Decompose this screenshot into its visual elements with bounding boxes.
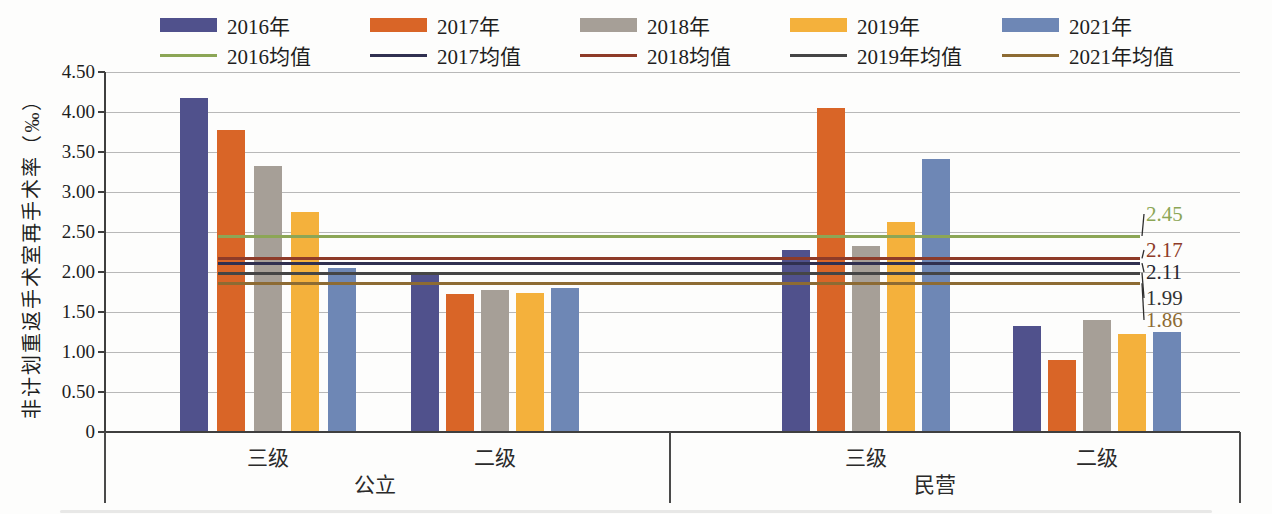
mean-value-label-2017均值: 2.11	[1146, 261, 1182, 283]
bar-2017年-公立 三级	[217, 130, 245, 432]
bar-2019年-民营 三级	[887, 222, 915, 432]
leader-line-2021年均值	[1142, 283, 1144, 320]
bar-2016年-公立 二级	[411, 274, 439, 432]
y-tick-label: 4.00	[49, 101, 95, 123]
scan-artifact	[60, 510, 1212, 513]
legend-item-2019年: 2019年	[790, 12, 920, 38]
y-tick-label: 4.50	[49, 61, 95, 83]
bar-2016年-民营 二级	[1013, 326, 1041, 432]
legend-item-2018均值: 2018均值	[580, 42, 731, 68]
x-axis-divider	[669, 432, 671, 503]
y-tick-label: 3.00	[49, 181, 95, 203]
legend-item-2018年: 2018年	[580, 12, 710, 38]
y-tick-mark	[98, 191, 105, 193]
x-sector-label: 公立	[295, 468, 455, 498]
legend-item-label: 2021年	[1069, 10, 1132, 40]
grid-line	[105, 72, 1240, 73]
mean-line-2017均值	[218, 262, 1140, 265]
grid-line	[105, 112, 1240, 113]
x-tier-label: 三级	[188, 441, 348, 471]
x-axis-line	[105, 431, 1240, 433]
legend-swatch-icon	[790, 18, 847, 32]
y-tick-label: 2.50	[49, 221, 95, 243]
x-tier-label: 三级	[786, 441, 946, 471]
y-tick-mark	[98, 271, 105, 273]
mean-value-label-2018均值: 2.17	[1146, 239, 1183, 261]
y-tick-mark	[98, 231, 105, 233]
legend-item-label: 2018年	[647, 10, 710, 40]
mean-line-2021年均值	[218, 282, 1140, 285]
legend-line-swatch-icon	[160, 54, 217, 57]
chart-figure: 2016年2017年2018年2019年2021年 2016均值2017均值20…	[0, 0, 1272, 514]
x-sector-label: 民营	[855, 468, 1015, 498]
legend-item-2021年: 2021年	[1002, 12, 1132, 38]
legend-line-swatch-icon	[580, 54, 637, 57]
bar-2019年-公立 二级	[516, 293, 544, 432]
leader-line-2018均值	[1142, 250, 1144, 258]
mean-value-label-2021年均值: 1.86	[1146, 309, 1183, 331]
y-tick-mark	[98, 391, 105, 393]
grid-line	[105, 152, 1240, 153]
y-tick-label: 2.00	[49, 261, 95, 283]
y-tick-mark	[98, 111, 105, 113]
bar-2021年-公立 二级	[551, 288, 579, 432]
y-tick-label: 3.50	[49, 141, 95, 163]
bar-2021年-民营 三级	[922, 159, 950, 432]
y-tick-label: 1.00	[49, 341, 95, 363]
legend-swatch-icon	[1002, 18, 1059, 32]
y-tick-label: 0	[49, 421, 95, 443]
y-tick-mark	[98, 71, 105, 73]
legend-item-2016均值: 2016均值	[160, 42, 311, 68]
x-tier-label: 二级	[1017, 441, 1177, 471]
bar-2016年-公立 三级	[180, 98, 208, 432]
mean-line-2016均值	[218, 235, 1140, 238]
legend-swatch-icon	[160, 18, 217, 32]
mean-value-label-2019年均值: 1.99	[1146, 287, 1183, 309]
x-axis-divider	[1239, 432, 1241, 503]
bar-2018年-公立 二级	[481, 290, 509, 432]
legend-item-label: 2017年	[437, 10, 500, 40]
legend-item-label: 2016年	[227, 10, 290, 40]
legend-item-2017均值: 2017均值	[370, 42, 521, 68]
legend-item-label: 2018均值	[647, 40, 731, 70]
y-tick-mark	[98, 151, 105, 153]
legend-line-swatch-icon	[1002, 54, 1059, 57]
bar-2017年-民营 三级	[817, 108, 845, 432]
bar-2018年-民营 二级	[1083, 320, 1111, 432]
legend-line-swatch-icon	[790, 54, 847, 57]
bar-2019年-公立 三级	[291, 212, 319, 432]
legend-item-2021年均值: 2021年均值	[1002, 42, 1174, 68]
bar-2018年-公立 三级	[254, 166, 282, 432]
legend-item-2016年: 2016年	[160, 12, 290, 38]
mean-line-2019年均值	[218, 272, 1140, 275]
bar-2017年-公立 二级	[446, 294, 474, 432]
legend-item-label: 2019年均值	[857, 40, 962, 70]
y-tick-mark	[98, 351, 105, 353]
y-tick-label: 1.50	[49, 301, 95, 323]
leader-line-2017均值	[1142, 263, 1144, 272]
x-axis-divider	[104, 432, 106, 503]
legend-swatch-icon	[580, 18, 637, 32]
y-tick-label: 0.50	[49, 381, 95, 403]
y-axis-title: 非计划重返手术室再手术率（‰）	[16, 44, 45, 464]
legend-item-2017年: 2017年	[370, 12, 500, 38]
legend-item-label: 2016均值	[227, 40, 311, 70]
bar-2021年-公立 三级	[328, 268, 356, 432]
y-tick-mark	[98, 311, 105, 313]
bar-2017年-民营 二级	[1048, 360, 1076, 432]
legend-item-label: 2017均值	[437, 40, 521, 70]
bar-2019年-民营 二级	[1118, 334, 1146, 432]
mean-line-2018均值	[218, 257, 1140, 260]
leader-line-2019年均值	[1142, 273, 1144, 298]
legend-item-2019年均值: 2019年均值	[790, 42, 962, 68]
bar-2016年-民营 三级	[782, 250, 810, 432]
x-tier-label: 二级	[415, 441, 575, 471]
y-axis-line	[104, 72, 106, 432]
legend-item-label: 2021年均值	[1069, 40, 1174, 70]
legend-swatch-icon	[370, 18, 427, 32]
legend-line-swatch-icon	[370, 54, 427, 57]
bar-2021年-民营 二级	[1153, 332, 1181, 432]
legend-item-label: 2019年	[857, 10, 920, 40]
mean-value-label-2016均值: 2.45	[1146, 203, 1183, 225]
